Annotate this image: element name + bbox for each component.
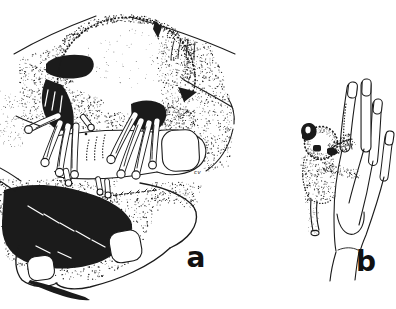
stipple-dot [129, 78, 130, 79]
stipple-dot [65, 80, 66, 81]
stipple-dot [349, 134, 350, 135]
stipple-dot [90, 187, 91, 188]
stipple-dot [5, 249, 6, 250]
stipple-dot [336, 153, 337, 154]
stipple-dot [156, 198, 157, 199]
stipple-dot [315, 166, 316, 167]
stipple-dot [317, 183, 318, 184]
stipple-dot [356, 169, 357, 170]
stipple-dot [61, 80, 62, 81]
stipple-dot [25, 114, 26, 115]
stipple-dot [93, 186, 94, 187]
stipple-dot [207, 158, 208, 159]
stipple-dot [206, 91, 207, 92]
stipple-dot [100, 43, 101, 44]
stipple-dot [178, 112, 179, 113]
stipple-dot [227, 106, 228, 107]
stipple-dot [183, 106, 184, 107]
stipple-dot [318, 164, 319, 165]
stipple-dot [351, 177, 352, 178]
stipple-dot [157, 20, 158, 21]
stipple-dot [76, 100, 77, 101]
stipple-dot [0, 124, 1, 125]
stipple-dot [171, 46, 172, 47]
stipple-dot [127, 113, 128, 114]
stipple-dot [177, 101, 178, 102]
stipple-dot [151, 223, 152, 224]
stipple-dot [194, 112, 195, 113]
stipple-dot [306, 173, 307, 174]
stipple-dot [146, 49, 147, 50]
stipple-dot [190, 42, 191, 43]
stipple-dot [120, 83, 121, 84]
stipple-dot [208, 112, 209, 113]
stipple-dot [8, 250, 9, 251]
stipple-dot [123, 115, 124, 116]
stipple-dot [3, 192, 4, 193]
stipple-dot [352, 139, 353, 140]
stipple-dot [168, 56, 169, 57]
stipple-dot [94, 272, 95, 273]
stipple-dot [192, 194, 193, 195]
stipple-dot [311, 138, 312, 139]
stipple-dot [197, 119, 198, 120]
stipple-dot [47, 51, 48, 52]
stipple-dot [22, 143, 23, 144]
stipple-dot [183, 122, 184, 123]
stipple-dot [180, 194, 181, 195]
stipple-dot [205, 62, 206, 63]
stipple-dot [164, 44, 165, 45]
stipple-dot [180, 118, 181, 119]
stipple-dot [30, 109, 31, 110]
stipple-dot [165, 61, 166, 62]
stipple-dot [195, 115, 196, 116]
stipple-dot [321, 171, 322, 172]
stipple-dot [166, 61, 167, 62]
stipple-dot [227, 114, 228, 115]
stipple-dot [169, 111, 170, 112]
stipple-dot [212, 60, 213, 61]
stipple-dot [4, 128, 5, 129]
stipple-dot [181, 96, 182, 97]
stipple-dot [200, 133, 201, 134]
stipple-dot [168, 114, 169, 115]
stipple-dot [132, 29, 133, 30]
stipple-dot [332, 152, 333, 153]
stipple-dot [108, 49, 109, 50]
stipple-dot [120, 120, 121, 121]
stipple-dot [139, 206, 140, 207]
stipple-dot [151, 198, 152, 199]
stipple-dot [190, 75, 191, 76]
stipple-dot [303, 170, 304, 171]
stipple-dot [115, 194, 116, 195]
stipple-dot [167, 64, 168, 65]
stipple-dot [213, 145, 214, 146]
stipple-dot [207, 49, 208, 50]
stipple-dot [76, 30, 77, 31]
stipple-dot [198, 127, 199, 128]
stipple-dot [169, 37, 170, 38]
stipple-dot [60, 46, 61, 47]
stipple-dot [66, 271, 67, 272]
stipple-dot [162, 101, 163, 102]
stipple-dot [173, 191, 174, 192]
stipple-dot [119, 118, 120, 119]
stipple-dot [325, 199, 326, 200]
stipple-dot [68, 42, 69, 43]
stipple-dot [341, 146, 342, 147]
stipple-dot [162, 191, 163, 192]
stipple-dot [26, 106, 27, 107]
stipple-dot [187, 67, 188, 68]
stipple-dot [49, 51, 50, 52]
stipple-dot [65, 82, 66, 83]
stipple-dot [316, 184, 317, 185]
stipple-dot [25, 63, 26, 64]
stipple-dot [310, 152, 311, 153]
stipple-dot [169, 192, 170, 193]
stipple-dot [193, 118, 194, 119]
stipple-dot [339, 173, 340, 174]
stipple-dot [217, 115, 218, 116]
stipple-dot [186, 66, 187, 67]
stipple-dot [330, 161, 331, 162]
stipple-dot [48, 55, 49, 56]
